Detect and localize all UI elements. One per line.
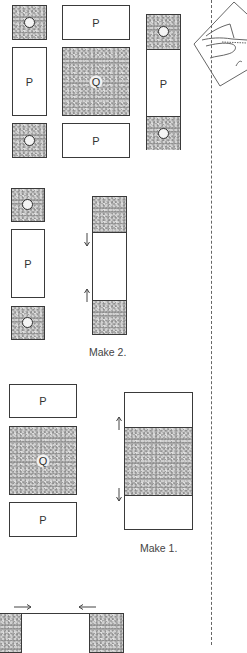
piece-p-rectangle: P — [11, 229, 45, 298]
assembled-o-p-o-strip: P — [146, 14, 181, 150]
press-arrow-up-icon — [116, 416, 122, 430]
piece-label: P — [10, 514, 76, 525]
piece-p-rectangle: P — [62, 5, 130, 40]
press-arrow-up-icon — [84, 288, 90, 302]
piece-o-marker — [22, 317, 33, 328]
piece-o-square — [11, 188, 45, 222]
strip-center-white — [21, 613, 90, 653]
piece-label: P — [10, 396, 76, 407]
piece-o-square — [12, 5, 47, 40]
step2-caption: Make 2. — [89, 346, 126, 358]
piece-o-marker — [158, 128, 169, 139]
piece-label: Q — [90, 75, 103, 88]
piece-label: P — [13, 76, 46, 87]
piece-q-square — [125, 427, 192, 496]
piece-p-rectangle — [125, 495, 192, 529]
piece-o-square — [93, 197, 126, 232]
piece-label: P — [12, 258, 44, 269]
piece-p-rectangle — [93, 232, 126, 301]
press-arrow-down-icon — [116, 488, 122, 502]
piece-o-marker — [22, 199, 33, 210]
piece-o-square — [11, 306, 45, 340]
folding-hands-illustration — [192, 0, 247, 90]
piece-q-square: Q — [9, 426, 77, 495]
piece-p-rectangle: P — [9, 384, 77, 418]
piece-label: P — [63, 17, 129, 28]
piece-label: P — [63, 135, 129, 146]
fold-line-dashed — [211, 0, 212, 645]
piece-o-marker — [24, 135, 35, 146]
step3-caption: Make 1. — [140, 542, 177, 554]
piece-p-rectangle: P — [147, 49, 180, 117]
piece-o-square — [12, 123, 47, 158]
piece-label: P — [147, 78, 180, 89]
piece-o-marker — [158, 26, 169, 37]
strip-right-print — [89, 613, 124, 653]
piece-p-rectangle: P — [9, 502, 77, 537]
piece-o-square — [147, 15, 180, 49]
piece-o-square — [147, 116, 180, 150]
piece-o-square — [93, 300, 126, 334]
piece-o-marker — [24, 17, 35, 28]
piece-label: Q — [37, 454, 50, 467]
press-arrow-right-icon — [14, 604, 32, 610]
hands-fold-icon — [192, 0, 247, 90]
piece-p-rectangle — [125, 393, 192, 427]
press-arrow-left-icon — [78, 604, 96, 610]
piece-q-square: Q — [62, 47, 130, 116]
piece-p-rectangle: P — [62, 123, 130, 158]
strip-left-print — [0, 613, 22, 653]
press-arrow-down-icon — [84, 233, 90, 247]
assembled-unit-make-1 — [124, 392, 193, 530]
assembled-unit-make-2 — [92, 196, 127, 335]
piece-p-rectangle: P — [12, 47, 47, 116]
